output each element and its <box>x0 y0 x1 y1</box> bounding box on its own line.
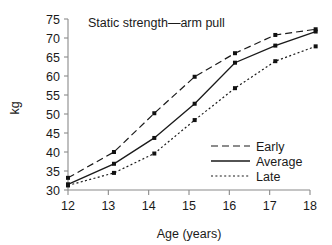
y-tick-label: 35 <box>46 165 60 179</box>
data-point <box>193 102 197 106</box>
y-tick-label: 30 <box>46 184 60 198</box>
data-point <box>273 59 277 63</box>
x-tick-label: 12 <box>61 199 75 213</box>
y-tick-label: 45 <box>46 127 60 141</box>
y-tick-label: 75 <box>46 13 60 27</box>
x-tick-label: 16 <box>222 199 236 213</box>
data-point <box>66 176 70 180</box>
data-point <box>66 183 70 187</box>
data-point <box>233 86 237 90</box>
legend-label-early: Early <box>256 140 285 154</box>
x-tick-label: 15 <box>182 199 196 213</box>
data-point <box>193 75 197 79</box>
x-tick-label: 13 <box>101 199 115 213</box>
data-point <box>233 61 237 65</box>
legend-label-late: Late <box>256 170 280 184</box>
x-axis-title: Age (years) <box>157 227 222 241</box>
data-point <box>273 33 277 37</box>
data-point <box>314 30 318 34</box>
y-tick-label: 55 <box>46 89 60 103</box>
data-point <box>152 136 156 140</box>
data-point <box>273 44 277 48</box>
y-tick-label: 70 <box>46 32 60 46</box>
y-tick-label: 50 <box>46 108 60 122</box>
y-tick-label: 40 <box>46 146 60 160</box>
x-tick-label: 17 <box>263 199 277 213</box>
data-point <box>152 111 156 115</box>
data-point <box>233 51 237 55</box>
data-point <box>112 150 116 154</box>
chart-title: Static strength—arm pull <box>88 16 225 30</box>
x-tick-label: 18 <box>303 199 317 213</box>
data-point <box>193 118 197 122</box>
line-chart: 30354045505560657075 12131415161718 Stat… <box>0 0 332 245</box>
x-tick-label: 14 <box>142 199 156 213</box>
chart-figure: 30354045505560657075 12131415161718 Stat… <box>0 0 332 245</box>
y-tick-label: 65 <box>46 51 60 65</box>
data-point <box>314 44 318 48</box>
data-point <box>112 171 116 175</box>
data-point <box>112 162 116 166</box>
y-axis-title: kg <box>8 101 22 114</box>
data-point <box>152 152 156 156</box>
legend-label-average: Average <box>256 155 302 169</box>
y-tick-label: 60 <box>46 70 60 84</box>
